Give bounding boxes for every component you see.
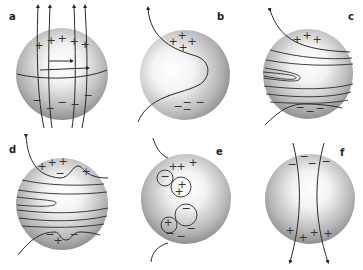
svg-text:−: − [70,98,79,111]
svg-text:+: + [292,33,301,46]
svg-text:+: + [69,35,78,48]
svg-text:−: − [182,103,191,116]
panel-c: c + + + − − − [263,10,354,125]
svg-text:−: − [173,100,182,113]
svg-text:+: + [178,41,187,54]
svg-text:+: + [309,226,318,239]
svg-text:−: − [315,102,324,115]
svg-text:−: − [57,96,66,109]
svg-text:−: − [83,89,92,102]
svg-text:+: + [57,32,66,45]
svg-text:−: − [181,202,190,215]
svg-text:+: + [323,227,332,240]
svg-text:−: − [55,167,64,180]
svg-text:−: − [32,94,41,107]
svg-text:+: + [46,34,55,47]
panel-d: d + + + + + − − − [9,136,108,255]
panel-f: f − − − − + + + + [265,143,355,262]
svg-text:+: + [302,29,311,42]
magnetic-sphere-figure: a + + + + + − − − − − b + + + [0,0,363,270]
svg-text:−: − [45,228,54,241]
svg-text:+: + [188,156,197,169]
svg-text:+: + [285,224,294,237]
svg-text:−: − [186,222,195,235]
panel-a: a + + + + + − − − − − [9,6,108,128]
svg-text:+: + [312,33,321,46]
panel-label-a: a [9,11,16,22]
svg-text:−: − [160,170,169,183]
panel-label-e: e [216,146,223,157]
svg-text:−: − [165,227,174,240]
svg-text:+: + [187,35,196,48]
svg-text:−: − [305,105,314,118]
svg-text:−: − [176,230,185,243]
panel-label-c: c [348,11,354,22]
svg-text:−: − [195,96,204,109]
panel-label-b: b [217,11,224,22]
svg-text:+: + [298,231,307,244]
svg-text:−: − [307,157,316,170]
svg-text:+: + [34,39,43,52]
svg-text:+: + [53,234,62,247]
panel-b: b + + + + − − − − [138,8,230,122]
svg-text:+: + [81,165,90,178]
negative-charges-f: − − − − [287,150,330,171]
svg-text:+: + [37,160,46,173]
svg-text:+: + [80,38,89,51]
svg-text:−: − [295,101,304,114]
panel-label-d: d [9,144,16,155]
panel-e: e + + + + + + − − − − − [141,138,231,262]
svg-text:−: − [69,228,78,241]
svg-text:−: − [45,102,54,115]
svg-text:+: + [174,185,183,198]
panel-label-f: f [340,147,345,158]
svg-text:−: − [321,155,330,168]
svg-text:−: − [287,158,296,171]
svg-text:+: + [176,160,185,173]
svg-text:+: + [168,35,177,48]
